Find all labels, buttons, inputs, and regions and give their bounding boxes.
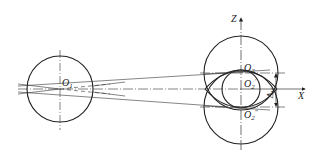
left-gear xyxy=(27,50,93,130)
left-right-ext-upper xyxy=(93,82,125,86)
diagram-canvas: O1 O2 O2′ O2″ Z X ΔW xyxy=(0,0,321,161)
lower-line xyxy=(18,92,228,107)
left-right-ext-lower xyxy=(93,92,125,96)
label-delta-w: ΔW xyxy=(265,87,276,99)
label-z-axis: Z xyxy=(231,13,237,24)
upper-line xyxy=(18,73,228,86)
label-x-axis: X xyxy=(297,90,305,101)
label-o2-double-prime: O2″ xyxy=(244,108,258,122)
